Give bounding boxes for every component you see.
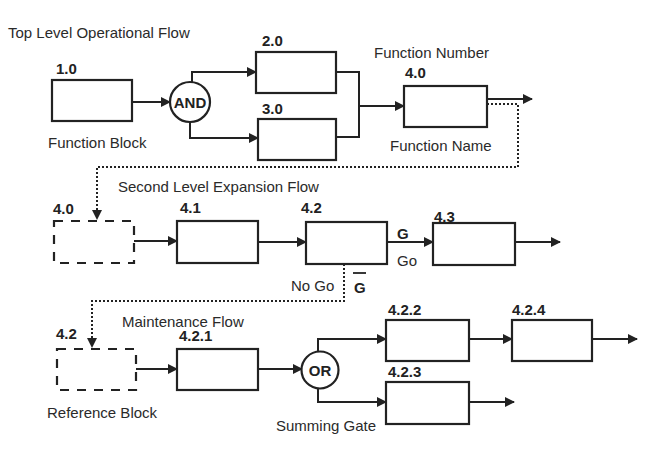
flow-arrow-or-to-4-2-3 (318, 388, 386, 402)
flow-arrow-and-to-3 (190, 122, 258, 138)
no-go-symbol: G (354, 279, 366, 296)
label-function-name: Function Name (390, 137, 492, 154)
function-block-4-3 (433, 223, 515, 265)
label-reference-block: Reference Block (47, 404, 158, 421)
block-number-4-2-1: 4.2.1 (179, 327, 212, 344)
block-number-4-2: 4.2 (301, 199, 322, 216)
function-block-2-0 (256, 52, 336, 93)
function-block-4-2-2 (386, 320, 469, 361)
section-title-top-level: Top Level Operational Flow (8, 24, 190, 41)
go-symbol: G (397, 225, 409, 242)
function-block-4-1 (177, 221, 258, 263)
block-number-4-2-4: 4.2.4 (512, 301, 546, 318)
section-title-second-level: Second Level Expansion Flow (118, 178, 319, 195)
functional-flow-diagram: Top Level Operational Flow 1.0 Function … (0, 0, 666, 454)
function-block-3-0 (258, 119, 336, 160)
block-number-3-0: 3.0 (262, 100, 283, 117)
function-block-1-0 (52, 80, 132, 121)
label-no-go: No Go (291, 277, 334, 294)
function-block-4-2-3 (386, 382, 469, 424)
and-gate-label: AND (174, 94, 207, 111)
label-summing-gate: Summing Gate (276, 417, 376, 434)
flow-arrow-or-to-4-2-2 (318, 339, 386, 352)
block-number-1-0: 1.0 (56, 60, 77, 77)
merge-line-2-3 (336, 72, 359, 137)
label-function-block: Function Block (48, 134, 147, 151)
flow-arrow-and-to-2 (192, 72, 256, 82)
label-function-number: Function Number (374, 44, 489, 61)
ref-number-4-0: 4.0 (53, 200, 74, 217)
reference-block-4-2 (57, 349, 136, 390)
block-number-4-2-3: 4.2.3 (388, 363, 421, 380)
ref-number-4-2: 4.2 (56, 325, 77, 342)
reference-block-4-0 (54, 221, 134, 263)
function-block-4-2 (306, 222, 387, 264)
function-block-4-2-1 (177, 349, 258, 390)
block-number-4-2-2: 4.2.2 (388, 301, 421, 318)
block-number-4-1: 4.1 (180, 199, 201, 216)
function-block-4-2-4 (512, 320, 592, 361)
block-number-2-0: 2.0 (262, 32, 283, 49)
function-block-4-0 (404, 86, 487, 127)
or-gate-label: OR (309, 362, 332, 379)
block-number-4-0: 4.0 (405, 64, 426, 81)
label-go: Go (397, 252, 417, 269)
